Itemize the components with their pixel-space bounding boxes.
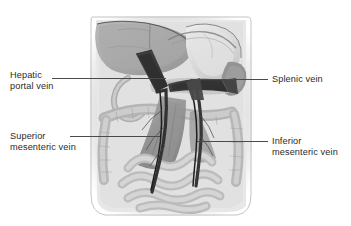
label-inferior-mesenteric-vein: Inferior mesenteric vein bbox=[272, 136, 338, 158]
label-splenic-vein: Splenic vein bbox=[272, 74, 323, 85]
label-superior-mesenteric-vein-line1: Superior bbox=[10, 131, 76, 142]
label-inferior-mesenteric-vein-line2: mesenteric vein bbox=[272, 147, 338, 158]
figure-page: Hepatic portal vein Superior mesenteric … bbox=[0, 0, 351, 226]
label-splenic-vein-line1: Splenic vein bbox=[272, 74, 323, 85]
cavity-shading bbox=[96, 20, 246, 212]
label-inferior-mesenteric-vein-line1: Inferior bbox=[272, 136, 338, 147]
label-hepatic-portal-vein-line1: Hepatic bbox=[10, 70, 54, 81]
label-hepatic-portal-vein: Hepatic portal vein bbox=[10, 70, 54, 92]
label-superior-mesenteric-vein: Superior mesenteric vein bbox=[10, 131, 76, 153]
abdominal-anatomy-illustration bbox=[0, 0, 351, 226]
label-superior-mesenteric-vein-line2: mesenteric vein bbox=[10, 142, 76, 153]
label-hepatic-portal-vein-line2: portal vein bbox=[10, 81, 54, 92]
